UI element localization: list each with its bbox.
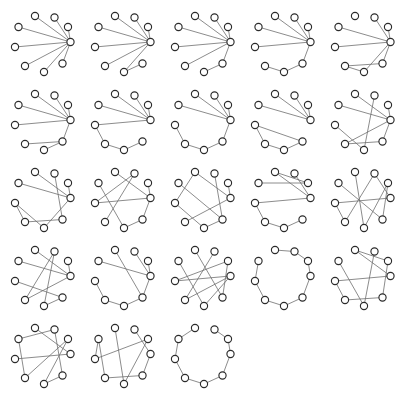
graph-edge xyxy=(25,220,63,223)
graph-edge xyxy=(95,198,151,203)
graph-edge xyxy=(364,42,391,72)
graph-node-1 xyxy=(219,216,226,223)
graph-node-2 xyxy=(360,302,367,309)
graph-node-4 xyxy=(251,43,258,50)
graph-node-2 xyxy=(40,68,47,75)
graph-node-1 xyxy=(219,60,226,67)
graph-node-7 xyxy=(211,14,218,21)
graph-node-6 xyxy=(271,12,278,19)
graph-node-3 xyxy=(101,296,108,303)
graph-edge xyxy=(259,27,311,42)
graph-edge xyxy=(55,174,63,220)
graph-node-0 xyxy=(307,38,314,45)
graph-node-0 xyxy=(67,38,74,45)
graph-node-0 xyxy=(147,38,154,45)
graph-node-5 xyxy=(335,257,342,264)
graph-node-8 xyxy=(64,101,71,108)
graph-node-0 xyxy=(387,194,394,201)
graph-node-0 xyxy=(227,116,234,123)
graph-node-6 xyxy=(31,90,38,97)
graph-node-5 xyxy=(335,23,342,30)
graph-node-8 xyxy=(64,257,71,264)
graph-node-6 xyxy=(271,246,278,253)
graph-node-4 xyxy=(91,121,98,128)
graph-node-0 xyxy=(307,194,314,201)
graph-node-5 xyxy=(255,23,262,30)
graph-edge xyxy=(339,27,391,42)
graph-edge xyxy=(383,261,389,298)
graph-node-4 xyxy=(251,277,258,284)
graph-node-1 xyxy=(219,294,226,301)
graph-node-0 xyxy=(227,272,234,279)
graph-node-6 xyxy=(191,168,198,175)
graph-node-8 xyxy=(384,179,391,186)
graph-node-3 xyxy=(181,140,188,147)
graph-node-2 xyxy=(120,302,127,309)
graph-edge xyxy=(44,198,71,228)
graph-edge xyxy=(124,42,151,72)
graph-node-8 xyxy=(384,257,391,264)
graph-node-2 xyxy=(120,68,127,75)
graph-node-6 xyxy=(111,90,118,97)
graph-edge xyxy=(15,120,71,125)
graph-node-5 xyxy=(175,23,182,30)
graph-edge xyxy=(355,172,364,228)
graph-edge xyxy=(345,64,383,67)
graph-node-8 xyxy=(144,101,151,108)
graph-node-1 xyxy=(139,216,146,223)
graph-node-2 xyxy=(360,68,367,75)
empty-grid-cell xyxy=(326,318,406,396)
graph-edge xyxy=(179,27,231,42)
graph-node-5 xyxy=(95,257,102,264)
graph-node-0 xyxy=(67,272,74,279)
graph-node-2 xyxy=(200,302,207,309)
graph-node-2 xyxy=(280,302,287,309)
graph-edge xyxy=(335,42,391,47)
graph-node-5 xyxy=(15,335,22,342)
graph-node-3 xyxy=(341,62,348,69)
graph-20-diagram xyxy=(326,240,406,318)
graph-edge xyxy=(99,105,151,120)
graph-15-diagram xyxy=(326,162,406,240)
graph-edge xyxy=(175,261,228,281)
graph-node-0 xyxy=(147,116,154,123)
graph-cell xyxy=(166,240,246,318)
graph-cell xyxy=(326,84,406,162)
graph-22-diagram xyxy=(86,318,166,396)
graph-node-1 xyxy=(379,138,386,145)
graph-node-2 xyxy=(120,380,127,387)
graph-node-2 xyxy=(360,224,367,231)
graph-cell xyxy=(86,84,166,162)
graph-edge xyxy=(215,174,223,220)
graph-edge xyxy=(195,250,223,298)
graph-node-3 xyxy=(341,296,348,303)
graph-node-4 xyxy=(11,199,18,206)
graph-cell xyxy=(246,240,326,318)
graph-node-5 xyxy=(15,101,22,108)
graph-node-1 xyxy=(139,138,146,145)
graph-node-5 xyxy=(15,179,22,186)
graph-node-5 xyxy=(175,179,182,186)
graph-node-5 xyxy=(335,179,342,186)
graph-cell xyxy=(86,318,166,396)
graph-node-3 xyxy=(21,296,28,303)
graph-node-8 xyxy=(144,179,151,186)
graph-node-3 xyxy=(181,374,188,381)
graph-node-5 xyxy=(95,23,102,30)
graph-node-4 xyxy=(171,43,178,50)
graph-cell xyxy=(6,318,86,396)
graph-node-5 xyxy=(15,257,22,264)
graph-node-0 xyxy=(387,116,394,123)
graph-node-6 xyxy=(271,90,278,97)
graph-edge xyxy=(95,174,135,204)
graph-node-0 xyxy=(67,194,74,201)
graph-node-0 xyxy=(387,38,394,45)
graph-node-1 xyxy=(139,294,146,301)
graph-node-8 xyxy=(304,23,311,30)
graph-cell xyxy=(326,162,406,240)
graph-node-4 xyxy=(331,277,338,284)
graph-edge xyxy=(19,27,71,42)
graph-node-6 xyxy=(351,12,358,19)
graph-edge xyxy=(179,105,231,120)
graph-node-7 xyxy=(371,170,378,177)
